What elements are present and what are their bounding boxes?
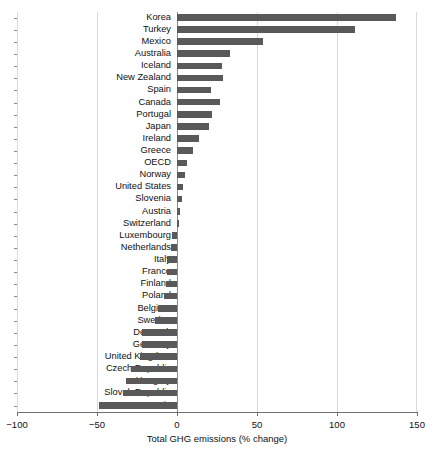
x-tick-label--50: −50 bbox=[89, 419, 105, 430]
y-tick bbox=[14, 260, 17, 261]
bar-row: Estonia bbox=[17, 401, 417, 412]
bar-row: Turkey bbox=[17, 25, 417, 36]
x-tick-label-50: 50 bbox=[252, 419, 263, 430]
bar-slovak-republic bbox=[123, 390, 177, 397]
bar-row: Germany bbox=[17, 340, 417, 351]
category-label-greece: Greece bbox=[141, 145, 172, 156]
bar-row: United States bbox=[17, 182, 417, 193]
bar-denmark bbox=[142, 329, 177, 336]
bar-row: Slovak Republic bbox=[17, 388, 417, 399]
bar-portugal bbox=[177, 111, 212, 118]
x-tick-label-100: 100 bbox=[329, 419, 345, 430]
bar-row: Spain bbox=[17, 85, 417, 96]
category-label-slovenia: Slovenia bbox=[135, 193, 171, 204]
category-label-iceland: Iceland bbox=[141, 60, 171, 71]
bar-row: Denmark bbox=[17, 328, 417, 339]
category-label-australia: Australia bbox=[135, 48, 171, 59]
bar-row: Sweden bbox=[17, 316, 417, 327]
category-label-new-zealand: New Zealand bbox=[116, 72, 171, 83]
bar-switzerland bbox=[177, 220, 179, 227]
bar-row: Switzerland bbox=[17, 219, 417, 230]
bar-row: OECD bbox=[17, 158, 417, 169]
bar-row: Norway bbox=[17, 170, 417, 181]
y-tick bbox=[14, 272, 17, 273]
category-label-japan: Japan bbox=[146, 121, 171, 132]
bar-row: Mexico bbox=[17, 37, 417, 48]
bar-row: Poland bbox=[17, 291, 417, 302]
bar-row: Czech Republic bbox=[17, 364, 417, 375]
bar-italy bbox=[167, 256, 177, 263]
category-label-turkey: Turkey bbox=[143, 24, 171, 35]
x-tick--50 bbox=[97, 412, 98, 416]
y-tick bbox=[14, 151, 17, 152]
x-axis-label: Total GHG emissions (% change) bbox=[17, 433, 417, 444]
y-tick bbox=[14, 115, 17, 116]
y-tick bbox=[14, 139, 17, 140]
y-tick bbox=[14, 30, 17, 31]
y-tick bbox=[14, 163, 17, 164]
bar-row: Hungary bbox=[17, 376, 417, 387]
x-tick-150 bbox=[417, 412, 418, 416]
bar-row: Italy bbox=[17, 255, 417, 266]
bar-poland bbox=[164, 293, 177, 300]
category-label-canada: Canada bbox=[138, 97, 171, 108]
y-tick bbox=[14, 393, 17, 394]
category-label-netherlands: Netherlands bbox=[121, 242, 171, 253]
category-label-switzerland: Switzerland bbox=[123, 218, 171, 229]
y-tick bbox=[14, 175, 17, 176]
bar-ireland bbox=[177, 135, 199, 142]
y-tick bbox=[14, 66, 17, 67]
category-label-portugal: Portugal bbox=[136, 109, 171, 120]
bar-row: Slovenia bbox=[17, 194, 417, 205]
y-tick bbox=[14, 357, 17, 358]
bar-row: Australia bbox=[17, 49, 417, 60]
bar-austria bbox=[177, 208, 180, 215]
bar-spain bbox=[177, 87, 211, 94]
bar-row: Iceland bbox=[17, 61, 417, 72]
y-tick bbox=[14, 321, 17, 322]
y-tick bbox=[14, 381, 17, 382]
bar-row: Belgium bbox=[17, 304, 417, 315]
bar-row: Portugal bbox=[17, 110, 417, 121]
bar-turkey bbox=[177, 26, 355, 33]
y-tick bbox=[14, 248, 17, 249]
bar-new-zealand bbox=[177, 75, 223, 82]
bar-united-kingdom bbox=[140, 353, 177, 360]
y-tick bbox=[14, 333, 17, 334]
y-tick bbox=[14, 127, 17, 128]
bar-row: Austria bbox=[17, 207, 417, 218]
bar-row: Korea bbox=[17, 13, 417, 24]
y-tick bbox=[14, 78, 17, 79]
y-tick bbox=[14, 42, 17, 43]
y-tick bbox=[14, 284, 17, 285]
category-label-united-states: United States bbox=[115, 181, 171, 192]
bar-united-states bbox=[177, 184, 183, 191]
bar-row: Canada bbox=[17, 98, 417, 109]
category-label-korea: Korea bbox=[146, 12, 171, 23]
y-tick bbox=[14, 18, 17, 19]
bar-row: France bbox=[17, 267, 417, 278]
bar-estonia bbox=[99, 402, 177, 409]
bar-sweden bbox=[155, 317, 177, 324]
y-tick bbox=[14, 296, 17, 297]
ghg-emissions-bar-chart: KoreaTurkeyMexicoAustraliaIcelandNew Zea… bbox=[0, 0, 435, 453]
y-tick bbox=[14, 345, 17, 346]
category-label-mexico: Mexico bbox=[142, 36, 171, 47]
bar-row: Ireland bbox=[17, 134, 417, 145]
bar-mexico bbox=[177, 38, 263, 45]
bar-belgium bbox=[158, 305, 177, 312]
y-tick bbox=[14, 236, 17, 237]
bar-norway bbox=[177, 172, 185, 179]
bar-canada bbox=[177, 99, 220, 106]
bar-netherlands bbox=[171, 244, 177, 251]
bar-czech-republic bbox=[131, 366, 177, 373]
category-label-norway: Norway bbox=[139, 169, 171, 180]
bar-germany bbox=[142, 341, 177, 348]
y-tick bbox=[14, 224, 17, 225]
bar-hungary bbox=[126, 378, 177, 385]
bar-row: Japan bbox=[17, 122, 417, 133]
y-tick bbox=[14, 199, 17, 200]
bar-korea bbox=[177, 14, 396, 21]
y-tick bbox=[14, 212, 17, 213]
category-label-austria: Austria bbox=[142, 206, 171, 217]
